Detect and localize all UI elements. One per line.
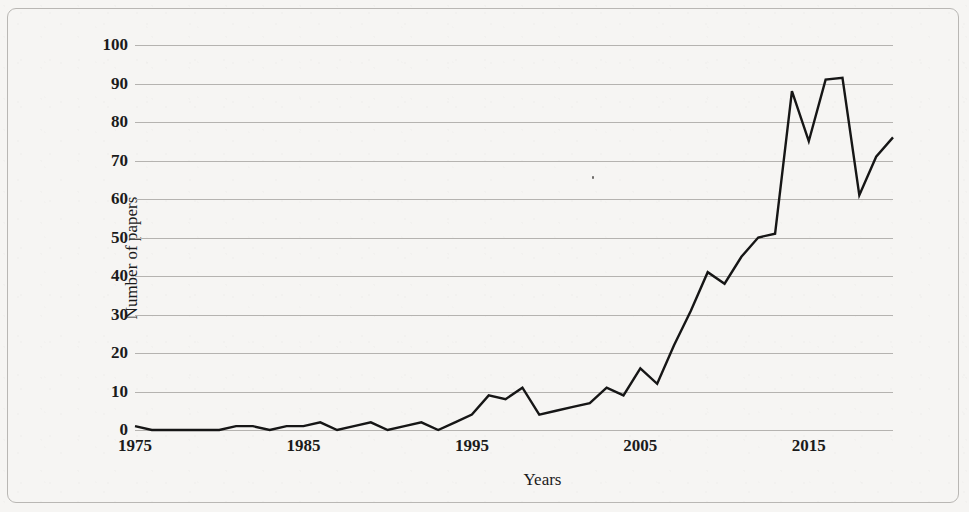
y-tick-label: 30 — [111, 305, 128, 325]
y-tick-label: 60 — [111, 189, 128, 209]
data-line-chart — [135, 45, 893, 430]
figure-container: Number of papers 0102030405060708090100 … — [0, 0, 969, 512]
x-tick-label: 1975 — [118, 436, 152, 456]
y-tick-label: 20 — [111, 343, 128, 363]
plot-area — [135, 45, 893, 430]
x-axis-title: Years — [0, 470, 969, 490]
y-tick-label: 80 — [111, 112, 128, 132]
x-axis-title-text: Years — [524, 470, 562, 489]
x-tick-label: 1995 — [455, 436, 489, 456]
x-tick-label: 2015 — [792, 436, 826, 456]
y-axis-tick-labels: 0102030405060708090100 — [70, 45, 128, 430]
y-tick-label: 50 — [111, 228, 128, 248]
y-tick-label: 10 — [111, 382, 128, 402]
scan-speck — [592, 176, 594, 179]
x-tick-label: 1985 — [286, 436, 320, 456]
gridline — [135, 430, 893, 431]
y-tick-label: 90 — [111, 74, 128, 94]
y-tick-label: 70 — [111, 151, 128, 171]
x-tick-label: 2005 — [623, 436, 657, 456]
x-axis-tick-labels: 19751985199520052015 — [135, 436, 893, 462]
y-tick-label: 100 — [103, 35, 129, 55]
series-polyline — [135, 78, 893, 430]
y-tick-label: 40 — [111, 266, 128, 286]
